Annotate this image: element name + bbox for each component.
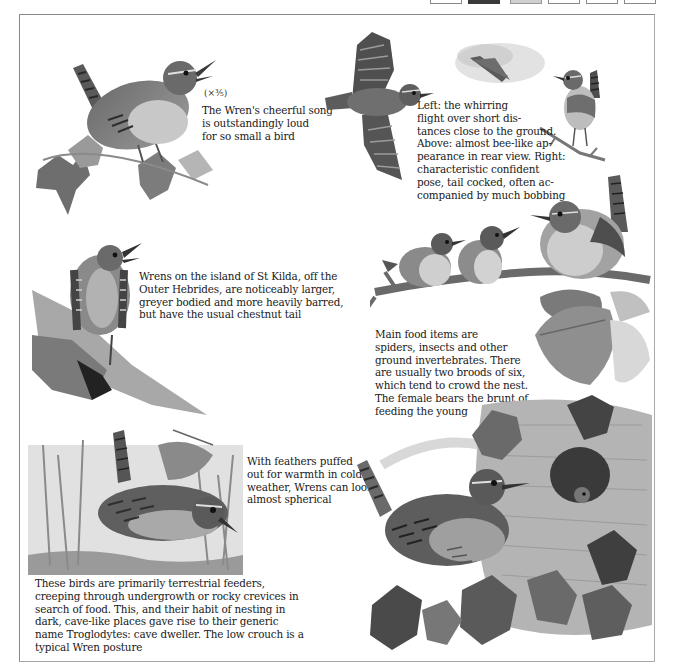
caption-line: flight over short dis- [417, 112, 565, 125]
caption-line: pearance in rear view. Right: [417, 150, 565, 163]
leaf-illustration [530, 290, 655, 400]
caption-line: These birds are primarily terrestrial fe… [35, 577, 304, 590]
caption-terrestrial: These birds are primarily terrestrial fe… [35, 577, 304, 654]
edge-tab [548, 0, 580, 4]
caption-st-kilda: Wrens on the island of St Kilda, off the… [139, 270, 343, 321]
caption-line: Left: the whirring [417, 99, 565, 112]
caption-line: Outer Hebrides, are noticeably larger, [139, 283, 343, 296]
caption-line: greyer bodied and more heavily barred, [139, 296, 343, 309]
edge-tab [586, 0, 618, 4]
nest-wren-illustration [352, 395, 654, 661]
edge-tab [468, 0, 500, 4]
edge-tab [430, 0, 462, 4]
caption-line: The Wren's cheerful song [202, 104, 333, 117]
crouching-wren-illustration [28, 425, 263, 575]
caption-line: name Troglodytes: cave dweller. The low … [35, 628, 304, 641]
edge-tab [624, 0, 656, 4]
caption-line: for so small a bird [202, 130, 333, 143]
caption-line: which tend to crowd the nest. [375, 379, 528, 392]
caption-line: typical Wren posture [35, 641, 304, 654]
caption-line: search of food. This, and their habit of… [35, 603, 304, 616]
caption-line: are usually two broods of six, [375, 366, 528, 379]
caption-line: Wrens on the island of St Kilda, off the [139, 270, 343, 283]
caption-line: Above: almost bee-like ap- [417, 137, 565, 150]
caption-line: is outstandingly loud [202, 117, 333, 130]
caption-line: spiders, insects and other [375, 341, 528, 354]
scale-note: (×⅗) [204, 88, 227, 98]
st-kilda-wren-illustration [32, 240, 212, 420]
caption-line: but have the usual chestnut tail [139, 308, 343, 321]
caption-line: creeping through undergrowth or rocky cr… [35, 590, 304, 603]
caption-song: The Wren's cheerful song is outstandingl… [202, 104, 333, 142]
edge-tabs [430, 0, 673, 5]
caption-line: Main food items are [375, 328, 528, 341]
caption-line: dark, cave-like places gave rise to thei… [35, 615, 304, 628]
singing-wren-illustration [28, 40, 218, 215]
edge-tab [510, 0, 542, 4]
caption-line: tances close to the ground. [417, 125, 565, 138]
caption-line: ground invertebrates. There [375, 354, 528, 367]
